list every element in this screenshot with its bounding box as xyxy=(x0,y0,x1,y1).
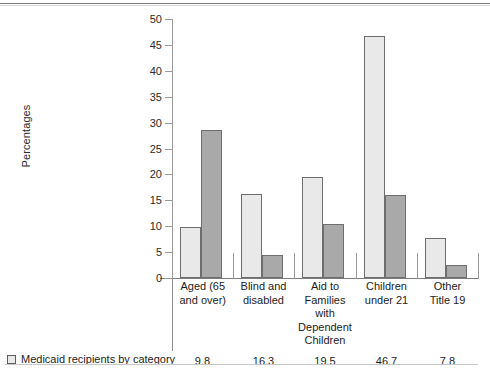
y-axis-tick-label: 15 xyxy=(136,195,162,206)
category-separator xyxy=(478,253,479,279)
table-cell: 46.7 xyxy=(356,351,417,368)
table-header-row: Aged (65and over)Blind anddisabledAid to… xyxy=(5,278,478,351)
legend-label: Medicaid recipients by category xyxy=(21,353,175,365)
top-border-rule-secondary xyxy=(0,5,490,6)
table-header-spacer xyxy=(5,278,172,351)
category-separator xyxy=(172,253,173,279)
table-cell: 7.8 xyxy=(417,351,478,368)
bar xyxy=(241,194,262,278)
y-axis-tick xyxy=(165,174,172,175)
category-header-line: Blind and xyxy=(235,280,292,294)
y-axis-tick-label: 35 xyxy=(136,92,162,103)
plot-area: Percentages 50454035302520151050 xyxy=(0,10,490,280)
y-axis-tick xyxy=(165,252,172,253)
category-header-5: OtherTitle 19 xyxy=(417,278,478,351)
y-axis-tick-label: 40 xyxy=(136,66,162,77)
category-separator xyxy=(356,253,357,279)
category-header-line: Aid to xyxy=(296,280,354,294)
category-header-line: Children xyxy=(358,280,415,294)
category-separator xyxy=(417,253,418,279)
category-header-line: Families with xyxy=(296,294,354,321)
table-row[interactable]: Medicaid recipients by category9.816.319… xyxy=(5,351,478,368)
y-axis-tick-label: 25 xyxy=(136,144,162,155)
bars-layer xyxy=(172,10,478,279)
y-axis-tick xyxy=(165,226,172,227)
bar xyxy=(302,177,323,278)
y-axis-tick-label: 20 xyxy=(136,169,162,180)
chart-figure: Percentages 50454035302520151050 Aged (6… xyxy=(0,0,490,368)
y-axis-title: Percentages xyxy=(20,81,32,191)
y-axis-tick xyxy=(165,149,172,150)
bar xyxy=(262,255,283,278)
y-axis-tick xyxy=(165,71,172,72)
y-axis-tick-label: 50 xyxy=(136,14,162,25)
category-header-line: Other xyxy=(419,280,476,294)
bar xyxy=(201,130,222,278)
y-axis-tick xyxy=(165,45,172,46)
table-cell: 16.3 xyxy=(233,351,294,368)
category-separator xyxy=(294,253,295,279)
y-axis-tick xyxy=(165,97,172,98)
bar xyxy=(425,238,446,278)
data-table: Aged (65and over)Blind anddisabledAid to… xyxy=(5,278,478,368)
category-header-line: and over) xyxy=(175,294,232,308)
category-header-line: disabled xyxy=(235,294,292,308)
bar xyxy=(364,36,385,278)
bar xyxy=(385,195,406,278)
category-header-1: Aged (65and over) xyxy=(172,278,233,351)
top-border-rule xyxy=(0,3,490,4)
y-axis-tick xyxy=(165,200,172,201)
y-axis-tick xyxy=(165,19,172,20)
table-cell: 9.8 xyxy=(172,351,233,368)
legend-entry[interactable]: Medicaid recipients by category xyxy=(5,351,172,368)
category-header-line: Dependent xyxy=(296,321,354,335)
category-header-line: Children xyxy=(296,334,354,348)
category-header-2: Blind anddisabled xyxy=(233,278,294,351)
bar xyxy=(323,224,344,278)
y-axis-tick-label: 10 xyxy=(136,221,162,232)
bar xyxy=(446,265,467,278)
y-axis-tick xyxy=(165,123,172,124)
y-axis-tick-label: 5 xyxy=(136,247,162,258)
category-header-line: Title 19 xyxy=(419,294,476,308)
bottom-border-rule xyxy=(5,364,478,365)
y-axis-tick-label: 30 xyxy=(136,118,162,129)
legend-swatch-icon xyxy=(7,355,16,364)
category-separator xyxy=(233,253,234,279)
category-header-3: Aid toFamilies withDependentChildren xyxy=(294,278,356,351)
category-header-4: Childrenunder 21 xyxy=(356,278,417,351)
category-header-line: Aged (65 xyxy=(175,280,232,294)
data-table-grid: Aged (65and over)Blind anddisabledAid to… xyxy=(5,278,478,368)
bar xyxy=(180,227,201,278)
bar-group xyxy=(356,18,417,278)
bar-group xyxy=(417,18,478,278)
bar-group xyxy=(233,18,294,278)
category-header-line: under 21 xyxy=(358,294,415,308)
bar-group xyxy=(172,18,233,278)
y-axis-tick-label: 45 xyxy=(136,40,162,51)
bar-group xyxy=(294,18,355,278)
data-table-body: Aged (65and over)Blind anddisabledAid to… xyxy=(5,278,478,368)
table-cell: 19.5 xyxy=(294,351,356,368)
